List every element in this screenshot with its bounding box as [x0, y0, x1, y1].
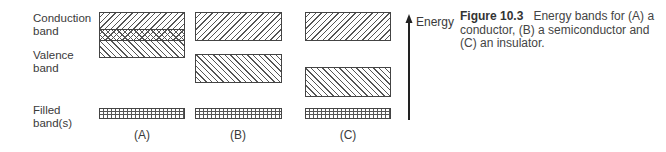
valence-band-c: [305, 67, 391, 97]
valence-band-b: [195, 54, 282, 83]
panel-label-a: (A): [99, 128, 185, 142]
conduction-label-line2: band: [33, 25, 91, 38]
conduction-band-c: [305, 12, 391, 41]
valence-label-line1: Valence: [33, 49, 74, 62]
figure-number: Figure 10.3: [460, 9, 523, 23]
overlap-region-a: [99, 29, 185, 41]
filled-band-c: [305, 108, 391, 119]
filled-band-a: [99, 108, 185, 119]
panel-label-c: (C): [305, 128, 391, 142]
figure-caption: Figure 10.3 Energy bands for (A) a condu…: [460, 10, 660, 51]
conduction-label-line1: Conduction: [33, 12, 91, 25]
valence-label-line2: band: [33, 62, 74, 75]
valence-band-label: Valence band: [33, 49, 74, 75]
panel-label-b: (B): [195, 128, 281, 142]
conduction-band-label: Conduction band: [33, 12, 91, 38]
conduction-band-b: [195, 12, 282, 41]
energy-arrow-icon: [403, 14, 415, 122]
filled-band-b: [195, 108, 282, 119]
filled-label-line1: Filled: [33, 104, 72, 117]
energy-axis-label: Energy: [416, 16, 454, 29]
filled-band-label: Filled band(s): [33, 104, 72, 130]
filled-label-line2: band(s): [33, 117, 72, 130]
